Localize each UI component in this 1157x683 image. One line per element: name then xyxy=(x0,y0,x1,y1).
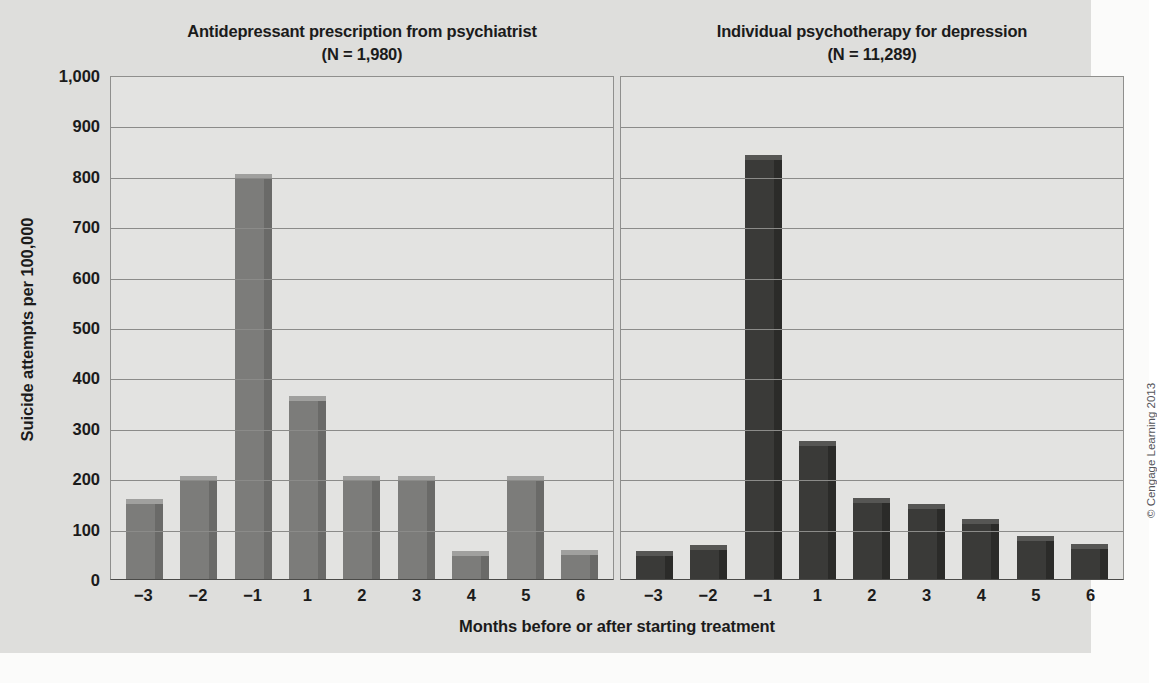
bar-slot xyxy=(845,77,899,579)
bar-top-face xyxy=(636,551,673,556)
y-axis-tick-label: 100 xyxy=(34,520,100,539)
bar-front-face xyxy=(853,502,882,579)
bar-slot xyxy=(335,77,389,579)
gridline xyxy=(621,329,1123,330)
y-axis-tick-label: 900 xyxy=(34,117,100,136)
bar-side-face xyxy=(665,555,673,579)
panel-psychotherapy: Individual psychotherapy for depression … xyxy=(620,20,1124,620)
bar-side-face xyxy=(774,159,782,579)
x-axis-tick-label: 6 xyxy=(1063,586,1118,605)
gridline xyxy=(111,127,613,128)
bar-top-face xyxy=(745,155,782,160)
bar-top-face xyxy=(1017,536,1054,541)
x-axis-tick-label: 5 xyxy=(1009,586,1064,605)
x-axis-tick-label: −1 xyxy=(735,586,790,605)
bar-front-face xyxy=(1017,540,1046,579)
gridline xyxy=(111,379,613,380)
y-axis-tick-labels: 1,0009008007006005004003002001000 xyxy=(34,66,100,580)
x-axis-tick-label: 5 xyxy=(499,586,554,605)
bar-slot xyxy=(553,77,607,579)
bar-top-face xyxy=(452,551,489,556)
bar-group-right xyxy=(621,77,1123,579)
gridline xyxy=(111,178,613,179)
gridline xyxy=(621,127,1123,128)
bar-side-face xyxy=(155,503,163,579)
bar-top-face xyxy=(690,545,727,550)
bar-front-face xyxy=(636,555,665,579)
panel-title-right: Individual psychotherapy for depression … xyxy=(620,20,1124,66)
bar-top-face xyxy=(908,504,945,509)
x-axis-tick-label: −3 xyxy=(626,586,681,605)
panel-title-left-main: Antidepressant prescription from psychia… xyxy=(187,22,537,40)
bar-top-face xyxy=(561,550,598,555)
bar-side-face xyxy=(590,554,598,579)
x-axis-tick-label: −2 xyxy=(681,586,736,605)
gridline xyxy=(111,430,613,431)
x-axis-tick-label: 1 xyxy=(790,586,845,605)
bar xyxy=(289,400,326,579)
bar-top-face xyxy=(289,396,326,401)
x-axis-tick-label: 2 xyxy=(845,586,900,605)
bar-slot xyxy=(1063,77,1117,579)
y-axis-tick-label: 600 xyxy=(34,268,100,287)
bar-side-face xyxy=(1046,540,1054,579)
bar-slot xyxy=(627,77,681,579)
bar xyxy=(561,554,598,579)
gridline xyxy=(111,531,613,532)
gridline xyxy=(111,228,613,229)
bar-front-face xyxy=(745,159,774,579)
bar xyxy=(1071,548,1108,579)
x-axis-tick-label: 6 xyxy=(553,586,608,605)
bar xyxy=(126,503,163,579)
bar-slot xyxy=(954,77,1008,579)
bar xyxy=(799,445,836,579)
bar-slot xyxy=(171,77,225,579)
bar xyxy=(1017,540,1054,579)
x-axis-tick-label: 2 xyxy=(335,586,390,605)
bar-front-face xyxy=(561,554,590,579)
gridline xyxy=(621,430,1123,431)
bar-group-left xyxy=(111,77,613,579)
bar-side-face xyxy=(719,549,727,579)
bar-top-face xyxy=(1071,544,1108,549)
bar-front-face xyxy=(126,503,155,579)
plot-area-right xyxy=(620,76,1124,580)
x-axis-tick-label: 3 xyxy=(899,586,954,605)
bar-slot xyxy=(226,77,280,579)
bar xyxy=(853,502,890,579)
bar-front-face xyxy=(452,555,481,579)
bar-slot xyxy=(117,77,171,579)
panel-antidepressant: Antidepressant prescription from psychia… xyxy=(110,20,614,620)
bar-front-face xyxy=(908,508,937,579)
bar-slot xyxy=(389,77,443,579)
bar-top-face xyxy=(853,498,890,503)
x-axis-tick-label: 4 xyxy=(954,586,1009,605)
y-axis-tick-label: 0 xyxy=(34,571,100,590)
panel-title-right-main: Individual psychotherapy for depression xyxy=(717,22,1027,40)
bar-slot xyxy=(899,77,953,579)
y-axis-tick-label: 300 xyxy=(34,419,100,438)
gridline xyxy=(111,329,613,330)
bar xyxy=(745,159,782,579)
gridline xyxy=(111,480,613,481)
y-axis-tick-label: 400 xyxy=(34,369,100,388)
gridline xyxy=(621,279,1123,280)
bar-side-face xyxy=(937,508,945,579)
bar-slot xyxy=(681,77,735,579)
bar-front-face xyxy=(690,549,719,579)
bar-slot xyxy=(1008,77,1062,579)
x-axis-tick-label: 4 xyxy=(444,586,499,605)
copyright-credit: © Cengage Learning 2013 xyxy=(1145,500,1157,518)
y-axis-tick-label: 500 xyxy=(34,319,100,338)
bar-side-face xyxy=(481,555,489,579)
bar xyxy=(452,555,489,579)
panel-title-right-sub: (N = 11,289) xyxy=(620,43,1124,66)
bar-side-face xyxy=(318,400,326,579)
bar-slot xyxy=(790,77,844,579)
y-axis-tick-label: 1,000 xyxy=(34,67,100,86)
plot-area-left xyxy=(110,76,614,580)
bar-side-face xyxy=(882,502,890,579)
y-axis-tick-label: 200 xyxy=(34,470,100,489)
x-axis-tick-label: −1 xyxy=(225,586,280,605)
